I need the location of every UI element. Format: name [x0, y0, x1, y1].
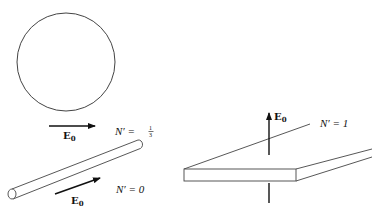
slab-figure: E0 N′ = 1 [184, 111, 372, 203]
svg-text:1: 1 [149, 125, 152, 131]
needle-figure: E0 N′ = 0 [8, 140, 145, 208]
slab-back-left-edge [184, 124, 310, 169]
needle-field-arrow [55, 178, 100, 194]
sphere-shape [17, 13, 115, 111]
sphere-depolarization-fraction: 1 3 [149, 125, 154, 138]
svg-text:3: 3 [149, 132, 152, 138]
sphere-field-label: E0 [63, 130, 76, 143]
needle-depolarization-label: N′ = 0 [115, 183, 145, 195]
slab-depolarization-label: N′ = 1 [319, 117, 348, 129]
sphere-depolarization-label: N′ = [114, 125, 135, 137]
needle-far-end [138, 140, 143, 149]
slab-front-face [184, 169, 296, 181]
needle-end-cap [8, 189, 16, 199]
needle-field-label: E0 [71, 195, 84, 208]
slab-top-right-edge [296, 149, 372, 169]
slab-field-label: E0 [274, 111, 287, 124]
depolarization-diagram: E0 N′ = 1 3 E0 N′ = 0 E0 N′ = 1 [0, 0, 372, 213]
needle-top-edge [12, 140, 138, 189]
sphere-figure: E0 N′ = 1 3 [17, 13, 154, 143]
slab-bottom-right-edge [296, 157, 372, 181]
